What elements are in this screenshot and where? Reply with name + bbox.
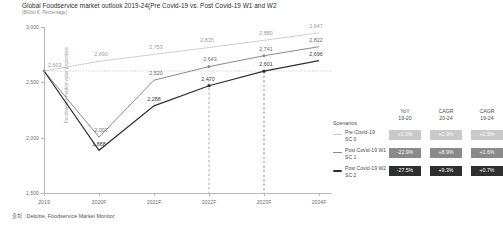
legend-row-post-covid-w1[interactable]: Post Covid-19 W1 SC 1 -22.9% +8.9% +1.6% (333, 147, 495, 165)
chart-plot-area: Foodservice market value projections 3,0… (44, 27, 332, 194)
legend-header-scenarios: Scenarios (333, 120, 357, 126)
column-header-yoy-line1: YoY (389, 108, 421, 115)
column-header-cagr-20-24: CAGR 20-24 (430, 108, 462, 122)
data-label-w2-2021: 2,288 (147, 96, 161, 102)
legend-label-post-covid-w2: Post Covid-19 W2 SC 2 (345, 165, 386, 179)
data-label-w2-2022: 2,470 (201, 76, 215, 82)
series-line-pre-covid (44, 33, 319, 71)
legend-row-post-covid-w2[interactable]: Post Covid-19 W2 SC 2 -27.5% +9.3% +0.7% (333, 165, 495, 183)
column-header-yoy-line2: 19-20 (389, 115, 421, 122)
data-label-w2-2024: 2,696 (309, 51, 323, 57)
data-label-w1-2022: 2,643 (203, 56, 217, 62)
source-note: 출처 : Deloitte, Foodservice Market Monito… (12, 212, 115, 220)
data-point-marker (208, 84, 211, 87)
x-axis-label-2022F: 2022F (202, 199, 217, 205)
data-label-w1-2024: 2,822 (309, 37, 323, 43)
legend-label-w1-line2: SC 1 (345, 154, 386, 161)
data-label-w1-2021: 2,520 (149, 70, 163, 76)
x-axis-label-2019: 2019 (38, 199, 50, 205)
y-axis-label-2000: 2,000 (26, 135, 39, 141)
legend-label-w1-line1: Post Covid-19 W1 (345, 147, 386, 154)
legend-swatch-icon (333, 170, 342, 172)
column-header-cagr-19-24: CAGR 19-24 (471, 108, 503, 122)
column-header-cagr1924-line2: 19-24 (471, 115, 503, 122)
column-header-cagr1924-line1: CAGR (471, 108, 503, 115)
legend-swatch-icon (333, 152, 342, 154)
x-axis-label-2024F: 2024F (312, 199, 327, 205)
y-axis-label-3000: 3,000 (26, 24, 39, 30)
data-label-pre-2019: 2,603 (48, 62, 62, 68)
y-axis-label-1500: 1,500 (26, 190, 39, 196)
cell-w1-yoy: -22.9% (389, 148, 421, 158)
data-label-pre-2022: 2,815 (200, 37, 214, 43)
data-label-w1-2020: 2,007 (94, 127, 108, 133)
data-label-pre-2024: 2,947 (309, 23, 323, 29)
data-label-pre-2020: 2,690 (94, 51, 108, 57)
cell-w2-cagr2024: +9.3% (430, 166, 462, 176)
y-axis-label-2500: 2,500 (26, 79, 39, 85)
data-label-pre-2021: 2,753 (149, 44, 163, 50)
legend-label-pre-covid-line2: SC 0 (345, 136, 375, 143)
legend-label-post-covid-w1: Post Covid-19 W1 SC 1 (345, 147, 386, 161)
legend-table: Scenarios YoY 19-20 CAGR 20-24 CAGR 19-2… (333, 108, 495, 186)
x-axis-label-2021F: 2021F (147, 199, 162, 205)
cell-w1-cagr2024: +8.9% (430, 148, 462, 158)
data-point-marker (208, 65, 211, 68)
x-axis-label-2023F: 2023F (257, 199, 272, 205)
data-point-marker (43, 70, 46, 73)
series-line-post-covid-w2 (44, 61, 319, 151)
x-axis-label-2020F: 2020F (92, 199, 107, 205)
legend-label-w2-line2: SC 2 (345, 172, 386, 179)
column-header-cagr2024-line2: 20-24 (430, 115, 462, 122)
data-point-marker (263, 70, 266, 73)
legend-row-pre-covid[interactable]: Pre Covid-19 SC 0 +3.3% +2.3% +2.5% (333, 129, 495, 147)
chart-lines (44, 27, 332, 194)
cell-pre-yoy: +3.3% (389, 130, 421, 140)
cell-w2-cagr1924: +0.7% (471, 166, 503, 176)
legend-label-pre-covid-line1: Pre Covid-19 (345, 129, 375, 136)
cell-w1-cagr1924: +1.6% (471, 148, 503, 158)
legend-label-w2-line1: Post Covid-19 W2 (345, 165, 386, 172)
data-label-w1-2023: 2,741 (259, 46, 273, 52)
data-label-w2-2020: 1,888 (92, 141, 106, 147)
column-header-cagr2024-line1: CAGR (430, 108, 462, 115)
cell-w2-yoy: -27.5% (389, 166, 421, 176)
page-subtitle: (Billion €, Percentage) (22, 10, 67, 16)
data-label-pre-2023: 2,880 (259, 30, 273, 36)
legend-label-pre-covid: Pre Covid-19 SC 0 (345, 129, 375, 143)
column-header-yoy: YoY 19-20 (389, 108, 421, 122)
data-point-marker (263, 54, 266, 57)
series-line-post-covid-w1 (44, 47, 319, 137)
cell-pre-cagr2024: +2.3% (430, 130, 462, 140)
legend-swatch-icon (333, 134, 342, 136)
cell-pre-cagr1924: +2.5% (471, 130, 503, 140)
page-title: Global Foodservice market outlook 2019-2… (22, 2, 277, 10)
data-label-w2-2023: 2,601 (259, 61, 273, 67)
